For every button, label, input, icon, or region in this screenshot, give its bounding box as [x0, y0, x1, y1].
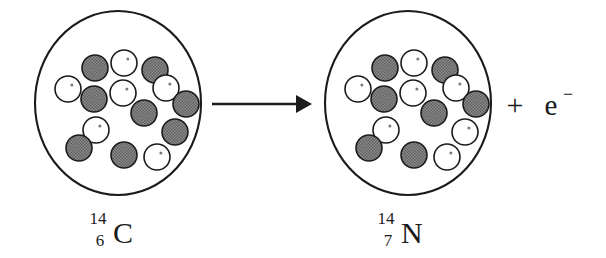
- electron-emission-label: + e −: [507, 84, 574, 121]
- nitrogen-proton-speck: [467, 127, 470, 130]
- nitrogen-neutron: [372, 55, 398, 81]
- nitrogen-proton: [400, 80, 426, 106]
- nitrogen-proton-speck: [416, 58, 419, 61]
- carbon-proton-speck: [159, 152, 162, 155]
- electron-symbol: e: [545, 89, 558, 121]
- carbon-proton-speck: [125, 88, 128, 91]
- nitrogen-proton: [434, 144, 460, 170]
- nitrogen-neutron: [421, 100, 447, 126]
- nitrogen-proton-speck: [360, 84, 363, 87]
- arrow-head: [296, 95, 312, 113]
- reaction-arrow: [212, 95, 312, 113]
- carbon-element-symbol: C: [113, 216, 133, 249]
- beta-decay-diagram: 14 6 C 14 7 N + e −: [0, 0, 606, 258]
- nitrogen-proton-speck: [449, 152, 452, 155]
- nitrogen-neutron: [371, 86, 397, 112]
- carbon-proton: [55, 76, 81, 102]
- carbon-neutron: [66, 135, 92, 161]
- carbon-neutron: [81, 86, 107, 112]
- nitrogen-14-group: [325, 11, 491, 195]
- carbon-14-label: 14 6 C: [90, 209, 134, 250]
- nitrogen-neutron: [356, 135, 382, 161]
- carbon-neutron: [131, 100, 157, 126]
- carbon-proton-speck: [168, 83, 171, 86]
- carbon-neutron: [173, 91, 199, 117]
- carbon-neutron: [111, 142, 137, 168]
- carbon-proton: [110, 80, 136, 106]
- nitrogen-atomic-number: 7: [384, 231, 393, 250]
- carbon-proton: [111, 50, 137, 76]
- carbon-proton: [144, 144, 170, 170]
- carbon-proton-speck: [98, 125, 101, 128]
- nitrogen-mass-number: 14: [378, 209, 396, 228]
- carbon-proton-speck: [126, 58, 129, 61]
- nitrogen-14-label: 14 7 N: [378, 209, 423, 250]
- nitrogen-proton: [401, 50, 427, 76]
- carbon-14-group: [35, 11, 201, 195]
- carbon-proton-speck: [70, 84, 73, 87]
- nitrogen-neutron: [401, 142, 427, 168]
- carbon-neutron: [162, 119, 188, 145]
- carbon-atomic-number: 6: [96, 231, 105, 250]
- nitrogen-proton-speck: [458, 83, 461, 86]
- carbon-neutron: [82, 55, 108, 81]
- nitrogen-neutron: [463, 91, 489, 117]
- nitrogen-proton: [452, 119, 478, 145]
- plus-sign: +: [507, 88, 524, 121]
- electron-charge-superscript: −: [563, 84, 573, 104]
- nitrogen-proton-speck: [415, 88, 418, 91]
- nitrogen-element-symbol: N: [401, 216, 423, 249]
- nitrogen-proton-speck: [388, 125, 391, 128]
- carbon-mass-number: 14: [90, 209, 108, 228]
- nitrogen-proton: [345, 76, 371, 102]
- diagram-canvas: 14 6 C 14 7 N + e −: [0, 0, 606, 258]
